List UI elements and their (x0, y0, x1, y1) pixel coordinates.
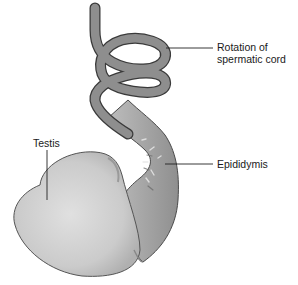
cord-label: Rotation of spermatic cord (217, 41, 286, 65)
epididymis-label: Epididymis (217, 158, 268, 170)
testis (14, 152, 143, 277)
cord-label-line2: spermatic cord (217, 53, 286, 65)
cord-label-line1: Rotation of (217, 41, 286, 53)
testis-label: Testis (33, 137, 60, 149)
torsion-diagram: Rotation of spermatic cord Epididymis Te… (0, 0, 298, 285)
